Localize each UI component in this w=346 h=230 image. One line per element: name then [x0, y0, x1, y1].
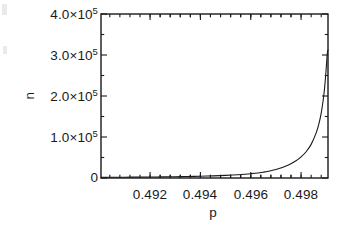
chart-figure: 4.0×105 3.0×105 2.0×105 1.0×105 0 n 0.49… [0, 0, 346, 230]
plot-area [0, 0, 346, 230]
axes-frame [101, 14, 328, 178]
data-series-line [101, 50, 328, 177]
axes-box [101, 14, 328, 178]
tick-marks [101, 14, 328, 178]
